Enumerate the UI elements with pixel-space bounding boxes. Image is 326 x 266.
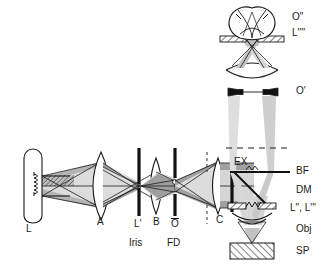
label-excitation-filter: EX: [234, 157, 247, 167]
label-objective: Obj: [296, 224, 312, 234]
label-specimen: SP: [296, 246, 309, 256]
label-condenser-lens: C: [216, 215, 223, 225]
label-intermediate-image: O': [296, 86, 306, 96]
ray-diagram-canvas: [0, 0, 326, 266]
label-collector-lens: A: [97, 217, 104, 227]
label-iris-plane: L': [134, 219, 141, 229]
specimen-block: [230, 243, 274, 259]
optical-diagram-figure: O" L'''' O' BF DM L", L''' Obj SP EX C L…: [0, 0, 326, 266]
label-iris: Iris: [129, 238, 142, 248]
label-field-lens: B: [153, 217, 160, 227]
intermediate-image-stop: [228, 88, 278, 96]
label-objective-pupil: L", L''': [290, 203, 316, 213]
label-field-diaphragm-plane: O: [171, 218, 179, 230]
label-lamp: L: [26, 224, 32, 234]
label-back-focal-plane: BF: [296, 166, 309, 176]
label-exit-pupil: L'''': [292, 28, 305, 38]
eyepiece-lens: [226, 63, 278, 78]
label-final-image: O": [292, 12, 303, 22]
label-dichroic-mirror: DM: [296, 185, 312, 195]
label-field-diaphragm: FD: [167, 238, 180, 248]
beam-fd-to-c: [175, 162, 216, 209]
